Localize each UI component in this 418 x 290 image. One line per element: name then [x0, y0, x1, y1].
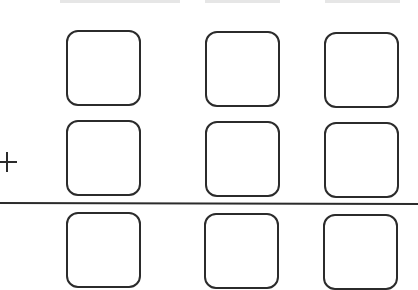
digit-box-row1-col2[interactable]	[205, 31, 280, 107]
sum-divider-line	[0, 202, 418, 205]
cut-off-header-fragment	[205, 0, 280, 3]
sum-box-col3[interactable]	[323, 214, 398, 290]
sum-box-col2[interactable]	[204, 213, 279, 289]
cut-off-header-fragment	[325, 0, 400, 3]
digit-box-row1-col3[interactable]	[324, 32, 399, 108]
digit-box-row2-col1[interactable]	[66, 120, 141, 196]
sum-box-col1[interactable]	[66, 212, 141, 288]
digit-box-row1-col1[interactable]	[66, 30, 141, 106]
digit-box-row2-col2[interactable]	[205, 121, 280, 197]
digit-box-row2-col3[interactable]	[324, 122, 399, 198]
cut-off-header-fragment	[60, 0, 180, 3]
plus-operator-icon	[0, 149, 20, 173]
